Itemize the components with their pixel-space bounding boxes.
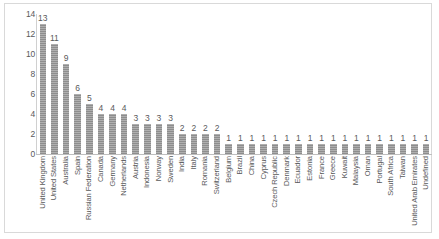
y-axis-tick-label: 10: [26, 50, 35, 58]
bar-column[interactable]: 2: [188, 14, 200, 154]
x-axis-tick-label: Brazil: [235, 156, 247, 239]
bar[interactable]: [132, 124, 139, 154]
x-axis-category-labels: United KingdomUnited StatesAustraliaSpai…: [37, 156, 432, 239]
bar-column[interactable]: 3: [130, 14, 142, 154]
bar[interactable]: [51, 44, 58, 154]
bar-value-label: 1: [316, 134, 328, 143]
bar-column[interactable]: 13: [37, 14, 49, 154]
bar[interactable]: [295, 144, 302, 154]
bar[interactable]: [63, 64, 70, 154]
bar[interactable]: [423, 144, 430, 154]
bar-column[interactable]: 1: [223, 14, 235, 154]
bar-column[interactable]: 2: [211, 14, 223, 154]
bar[interactable]: [342, 144, 349, 154]
chart-container: 02468101214 1311965444333322221111111111…: [4, 3, 432, 233]
bar-column[interactable]: 1: [374, 14, 386, 154]
bar[interactable]: [202, 134, 209, 154]
bar-column[interactable]: 1: [420, 14, 432, 154]
bar[interactable]: [388, 144, 395, 154]
bar[interactable]: [225, 144, 232, 154]
bar[interactable]: [109, 114, 116, 154]
bar-column[interactable]: 3: [153, 14, 165, 154]
bar-value-label: 9: [60, 54, 72, 63]
bar[interactable]: [307, 144, 314, 154]
bar-column[interactable]: 4: [118, 14, 130, 154]
bar-column[interactable]: 2: [200, 14, 212, 154]
x-axis-tick-label: Oman: [362, 156, 374, 239]
plot-area: 131196544433332222111111111111111111: [37, 14, 432, 154]
bar-column[interactable]: 1: [386, 14, 398, 154]
y-axis-tick-label: 12: [26, 30, 35, 38]
bar-column[interactable]: 3: [165, 14, 177, 154]
x-axis-tick-label: Taiwan: [397, 156, 409, 239]
bar-value-label: 1: [223, 134, 235, 143]
bar[interactable]: [272, 144, 279, 154]
bar-value-label: 2: [200, 124, 212, 133]
bar[interactable]: [376, 144, 383, 154]
bar[interactable]: [156, 124, 163, 154]
bar-column[interactable]: 3: [142, 14, 154, 154]
y-axis: 02468101214: [11, 14, 35, 154]
bar[interactable]: [86, 104, 93, 154]
bar[interactable]: [237, 144, 244, 154]
bar-column[interactable]: 5: [83, 14, 95, 154]
bar[interactable]: [40, 24, 47, 154]
bar-column[interactable]: 1: [316, 14, 328, 154]
bar-column[interactable]: 1: [246, 14, 258, 154]
bar-column[interactable]: 1: [327, 14, 339, 154]
bar[interactable]: [74, 94, 81, 154]
bar[interactable]: [365, 144, 372, 154]
bar-value-label: 1: [327, 134, 339, 143]
y-axis-tick-label: 2: [30, 130, 35, 138]
bar[interactable]: [260, 144, 267, 154]
bar[interactable]: [98, 114, 105, 154]
bar-column[interactable]: 4: [95, 14, 107, 154]
x-axis-line: [36, 154, 432, 155]
bar[interactable]: [411, 144, 418, 154]
bar-column[interactable]: 2: [176, 14, 188, 154]
bar[interactable]: [249, 144, 256, 154]
bar-column[interactable]: 1: [269, 14, 281, 154]
bar[interactable]: [121, 114, 128, 154]
x-axis-tick-label: Malaysia: [351, 156, 363, 239]
bar[interactable]: [179, 134, 186, 154]
bar-value-label: 1: [304, 134, 316, 143]
bar[interactable]: [353, 144, 360, 154]
bar[interactable]: [400, 144, 407, 154]
bar-column[interactable]: 1: [397, 14, 409, 154]
x-axis-tick-label: United Arab Emirates: [409, 156, 421, 239]
bar[interactable]: [283, 144, 290, 154]
x-axis-tick-label: China: [246, 156, 258, 239]
y-axis-tick-label: 0: [30, 150, 35, 158]
bar[interactable]: [191, 134, 198, 154]
x-axis-tick-label: Austria: [130, 156, 142, 239]
x-axis-tick-label: France: [316, 156, 328, 239]
x-axis-tick-label: Switzerland: [211, 156, 223, 239]
bar-column[interactable]: 1: [339, 14, 351, 154]
bar-column[interactable]: 1: [281, 14, 293, 154]
bar-value-label: 6: [72, 84, 84, 93]
bar[interactable]: [167, 124, 174, 154]
bar-column[interactable]: 11: [49, 14, 61, 154]
bar[interactable]: [144, 124, 151, 154]
bar-column[interactable]: 1: [293, 14, 305, 154]
bar-column[interactable]: 1: [351, 14, 363, 154]
bar-column[interactable]: 1: [304, 14, 316, 154]
bar-column[interactable]: 6: [72, 14, 84, 154]
bar-column[interactable]: 1: [258, 14, 270, 154]
bar-column[interactable]: 1: [235, 14, 247, 154]
bar[interactable]: [214, 134, 221, 154]
bar[interactable]: [318, 144, 325, 154]
bar-value-label: 1: [420, 134, 432, 143]
bar[interactable]: [330, 144, 337, 154]
bar-column[interactable]: 9: [60, 14, 72, 154]
bar-column[interactable]: 4: [107, 14, 119, 154]
bar-value-label: 1: [269, 134, 281, 143]
x-axis-tick-label: Romania: [200, 156, 212, 239]
bar-value-label: 1: [386, 134, 398, 143]
y-axis-tick-label: 6: [30, 90, 35, 98]
bar-value-label: 1: [235, 134, 247, 143]
bar-column[interactable]: 1: [409, 14, 421, 154]
bar-column[interactable]: 1: [362, 14, 374, 154]
bar-value-label: 2: [188, 124, 200, 133]
